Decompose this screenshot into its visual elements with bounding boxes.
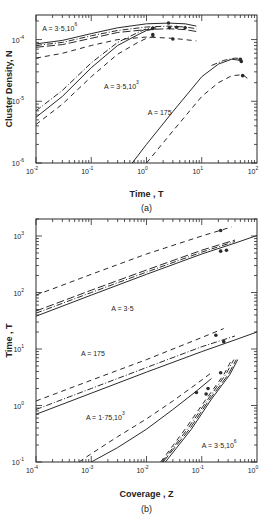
chart-panel-b: 10-410-310-210-110010-1100101102103Cover… <box>4 219 259 514</box>
x-tick-label: 10-1 <box>192 464 204 474</box>
x-tick-label: 10-1 <box>81 165 93 175</box>
series-line-a-175-dash <box>36 329 224 401</box>
y-tick-label: 103 <box>13 230 24 240</box>
series-annotation: A = 3·5 <box>111 305 133 312</box>
data-point-marker <box>241 74 245 78</box>
panel-label: (a) <box>141 203 152 213</box>
y-tick-label: 10-4 <box>12 34 24 44</box>
data-point-marker <box>206 387 210 391</box>
series-annotation: A = 1·75,103 <box>86 410 125 421</box>
x-tick-label: 10-4 <box>26 464 38 474</box>
data-point-marker <box>167 21 171 25</box>
data-point-marker <box>175 25 179 29</box>
x-tick-label: 10-3 <box>81 464 93 474</box>
series-line-a-3-5-dashdot <box>36 242 235 314</box>
series-annotation: A = 3·5,106 <box>202 438 237 449</box>
y-tick-label: 10-6 <box>12 157 24 167</box>
x-tick-label: 100 <box>248 464 259 474</box>
data-point-marker <box>219 371 223 375</box>
panel-label: (b) <box>141 504 152 514</box>
y-tick-label: 102 <box>13 287 24 297</box>
data-point-marker <box>219 229 223 233</box>
x-tick-label: 100 <box>137 165 148 175</box>
x-tick-label: 10-2 <box>136 464 148 474</box>
data-point-marker <box>151 33 155 37</box>
chart-panel-a: 10-210-110010110210-610-510-4Time , T(a)… <box>4 15 259 213</box>
series-annotation: A = 175 <box>148 109 172 116</box>
y-tick-label: 101 <box>13 343 24 353</box>
y-tick-label: 10-1 <box>12 456 24 466</box>
data-point-marker <box>195 391 199 395</box>
data-point-marker <box>151 27 155 31</box>
data-point-marker <box>171 37 175 41</box>
data-point-marker <box>214 333 218 337</box>
y-axis-label: Cluster Density, N <box>4 51 14 128</box>
data-point-marker <box>168 26 172 30</box>
data-point-marker <box>225 248 229 252</box>
series-annotation: A = 3·5,106 <box>42 21 77 32</box>
data-point-marker <box>219 249 223 253</box>
figure: 10-210-110010110210-610-510-4Time , T(a)… <box>0 0 279 521</box>
data-point-marker <box>240 60 244 64</box>
x-tick-label: 101 <box>192 165 203 175</box>
series-line-a-175-dashdot <box>36 336 235 410</box>
series-line-a-3-5-dash <box>36 227 232 295</box>
data-point-marker <box>222 340 226 344</box>
y-tick-label: 100 <box>13 400 24 410</box>
series-annotation: A = 3·5,103 <box>104 79 139 90</box>
y-axis-label: Time , T <box>4 323 14 357</box>
data-point-marker <box>204 392 208 396</box>
series-line-a-175-solid <box>36 332 257 414</box>
series-annotation: A = 175 <box>81 350 105 357</box>
x-tick-label: 102 <box>248 165 259 175</box>
x-tick-label: 10-2 <box>26 165 38 175</box>
series-line-a-3-5-solid <box>36 236 257 317</box>
data-point-marker <box>183 26 187 30</box>
x-axis-label: Time , T <box>130 189 164 199</box>
series-line-a-175-dashdot <box>212 58 243 65</box>
series-line-a-3-5e3-dashdot <box>36 27 156 111</box>
series-line-a-175-dash <box>147 75 249 163</box>
x-axis-label: Coverage , Z <box>119 489 174 499</box>
